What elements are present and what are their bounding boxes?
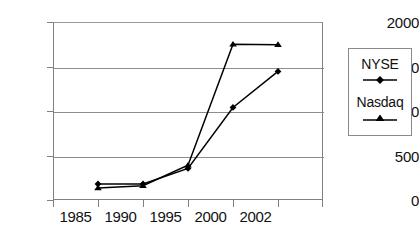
plot-area	[53, 22, 323, 200]
y-axis-label-2000: 2000	[373, 15, 419, 30]
x-axis-tick-3	[188, 200, 189, 207]
x-axis-tick-4	[233, 200, 234, 207]
legend-entry-nasdaq: Nasdaq	[349, 95, 411, 124]
x-axis-label-2000: 2000	[187, 209, 235, 225]
x-axis-label-1990: 1990	[97, 209, 145, 225]
gridline-1000	[54, 112, 324, 113]
x-axis-label-1985: 1985	[52, 209, 100, 225]
y-axis-label-0: 0	[373, 193, 419, 208]
chart-figure: 2000 1500 1000 500 0 1985 1990 1995 2000…	[0, 0, 419, 236]
x-axis-label-1995: 1995	[142, 209, 190, 225]
x-axis-tick-end	[322, 200, 323, 207]
y-axis-label-500: 500	[373, 149, 419, 164]
gridline-500	[54, 157, 324, 158]
x-axis-tick-1	[98, 200, 99, 207]
legend-label-nyse: NYSE	[349, 57, 411, 72]
diamond-marker-icon	[349, 74, 411, 86]
x-axis-tick-2	[143, 200, 144, 207]
chart-legend: NYSE Nasdaq	[348, 48, 412, 136]
x-axis-label-2002: 2002	[232, 209, 280, 225]
triangle-marker-icon	[349, 112, 411, 124]
legend-entry-nyse: NYSE	[349, 57, 411, 86]
legend-label-nasdaq: Nasdaq	[349, 95, 411, 110]
gridline-1500	[54, 68, 324, 69]
x-axis-tick-start	[53, 200, 54, 207]
x-axis-tick-5	[278, 200, 279, 207]
